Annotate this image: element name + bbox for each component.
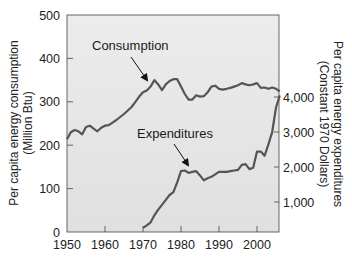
left-tick-label: 100 bbox=[39, 182, 60, 196]
right-axis-title-line2: (Constant 1970 Dollars) bbox=[317, 61, 331, 188]
left-axis-title-line1: Per capita energy consumption bbox=[7, 40, 21, 205]
x-tick-label: 1960 bbox=[91, 238, 119, 252]
right-axis: 1,0002,0003,0004,000 bbox=[274, 91, 314, 210]
consumption-annotation: Consumption bbox=[92, 38, 169, 53]
expenditures-annotation: Expenditures bbox=[137, 126, 213, 141]
energy-chart: 0100200300400500 1,0002,0003,0004,000 19… bbox=[0, 0, 352, 265]
right-axis-title-line1: Per capita energy expenditures bbox=[331, 41, 345, 207]
right-tick-label: 3,000 bbox=[283, 126, 314, 140]
right-tick-label: 1,000 bbox=[283, 196, 314, 210]
left-axis-title-line2: (Million Btu) bbox=[21, 91, 35, 154]
x-tick-label: 1970 bbox=[129, 238, 157, 252]
right-tick-label: 2,000 bbox=[283, 161, 314, 175]
left-tick-label: 200 bbox=[39, 139, 60, 153]
x-tick-label: 1980 bbox=[167, 238, 195, 252]
x-tick-label: 2000 bbox=[243, 238, 271, 252]
left-tick-label: 400 bbox=[39, 52, 60, 66]
left-tick-label: 300 bbox=[39, 95, 60, 109]
right-tick-label: 4,000 bbox=[283, 91, 314, 105]
x-tick-label: 1950 bbox=[53, 238, 81, 252]
x-tick-label: 1990 bbox=[205, 238, 233, 252]
left-tick-label: 500 bbox=[39, 9, 60, 23]
